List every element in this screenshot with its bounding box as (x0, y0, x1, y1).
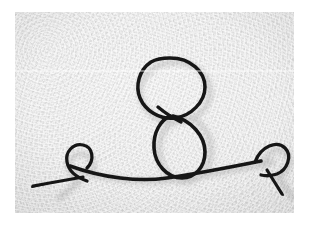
photograph (15, 12, 294, 213)
upper-loop (138, 58, 205, 118)
wire-sculpture-graphic (15, 12, 294, 213)
screenshot-canvas: A thin black wire bent into two stacked … (0, 0, 310, 226)
